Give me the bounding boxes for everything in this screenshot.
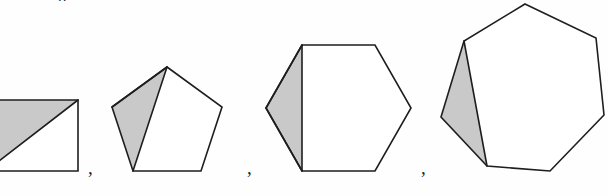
shapes-group (0, 4, 604, 171)
shape-heptagon (441, 4, 604, 171)
shape-square (0, 100, 78, 171)
separator-comma-1: , (88, 158, 93, 177)
separator-comma-3: , (421, 158, 426, 177)
shape-hexagon (266, 45, 411, 171)
hexagon-shaded-triangle (266, 45, 302, 171)
separator-comma-2: , (247, 158, 252, 177)
figure-canvas: p , , , (0, 0, 608, 196)
shape-pentagon (112, 67, 222, 171)
